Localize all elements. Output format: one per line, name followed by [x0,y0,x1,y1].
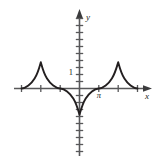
x-tick-label-pi: π [97,90,102,100]
graph-figure: y x 1 π [0,0,161,160]
y-tick-label-one: 1 [69,67,73,77]
x-axis-label: x [144,91,149,101]
y-axis-label: y [85,12,90,22]
coordinate-plot: y x 1 π [0,0,161,160]
y-axis-arrowhead [76,9,83,18]
